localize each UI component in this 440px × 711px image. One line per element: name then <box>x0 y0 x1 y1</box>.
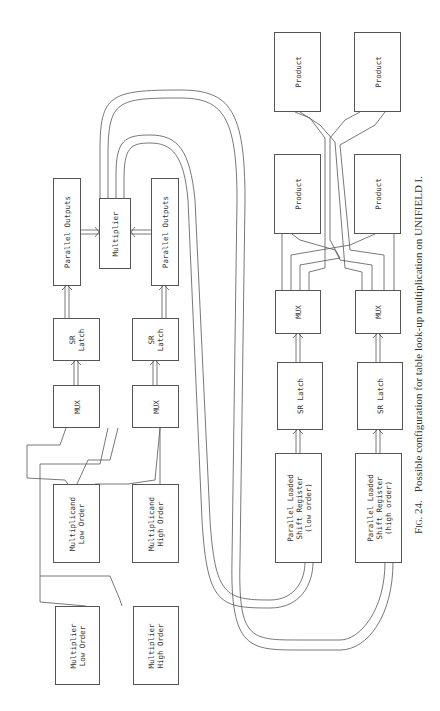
product-box-4: Product <box>354 154 401 234</box>
product-box-1: Product <box>274 32 321 112</box>
multiplier-high-order: Multiplier High Order <box>133 606 179 685</box>
figure-caption: Fig. 24.Possible configuration for table… <box>412 176 424 534</box>
figure-number: Fig. 24. <box>412 500 424 534</box>
sr-latch-lower: SR Latch <box>132 318 179 361</box>
mux-label: MUX <box>294 305 303 319</box>
product-label: Product <box>293 178 302 210</box>
multiplicand-high-label: Multiplicand High Order <box>147 496 165 550</box>
multiplier-unit: Multiplier <box>99 198 131 269</box>
shift-register-high-order: Parallel Loaded Shift Register (high ord… <box>355 453 402 563</box>
sr-latch-upper: SR Latch <box>53 318 100 361</box>
multiplicand-high-order: Multiplicand High Order <box>132 484 179 563</box>
sr-latch-label: SR Latch <box>296 378 305 414</box>
multiplicand-low-label: Multiplicand Low Order <box>68 496 86 550</box>
parallel-outputs-lower: Parallel Outputs <box>151 178 179 286</box>
product-label: Product <box>373 56 382 88</box>
mux-right-low: MUX <box>275 290 321 334</box>
shift-register-high-label: Parallel Loaded Shift Register (high ord… <box>365 474 392 542</box>
sr-latch-right-high: SR Latch <box>357 362 403 430</box>
sr-latch-label: SR Latch <box>376 378 385 414</box>
mux-upper: MUX <box>53 385 100 428</box>
mux-label: MUX <box>374 305 383 319</box>
shift-register-low-order: Parallel Loaded Shift Register (low orde… <box>275 453 322 563</box>
multiplier-label: Multiplier <box>111 211 120 256</box>
multiplier-high-label: Multiplier High Order <box>147 623 165 668</box>
shift-register-low-label: Parallel Loaded Shift Register (low orde… <box>285 474 312 542</box>
multiplier-low-label: Multiplier Low Order <box>69 623 87 668</box>
mux-label: MUX <box>151 400 160 414</box>
multiplicand-low-order: Multiplicand Low Order <box>53 484 100 563</box>
multiplier-low-order: Multiplier Low Order <box>55 606 100 685</box>
sr-latch-label: SR Latch <box>68 328 86 351</box>
mux-right-high: MUX <box>355 290 401 334</box>
sr-latch-right-low: SR Latch <box>277 362 323 430</box>
figure-caption-text: Possible configuration for table look-up… <box>412 176 424 492</box>
product-label: Product <box>373 178 382 210</box>
mux-label: MUX <box>72 400 81 414</box>
product-box-3: Product <box>274 154 321 234</box>
parallel-outputs-label: Parallel Outputs <box>161 196 170 268</box>
mux-lower: MUX <box>132 385 179 428</box>
product-label: Product <box>293 56 302 88</box>
product-box-2: Product <box>354 32 401 112</box>
parallel-outputs-label: Parallel Outputs <box>63 196 72 268</box>
parallel-outputs-upper: Parallel Outputs <box>53 178 81 286</box>
sr-latch-label: SR Latch <box>147 328 165 351</box>
